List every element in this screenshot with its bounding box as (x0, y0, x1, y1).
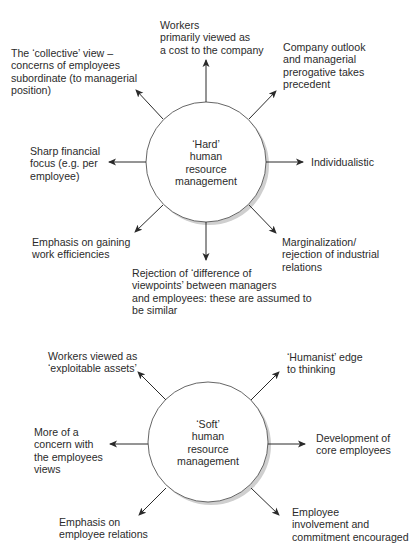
label-line: ‘Humanist’ edge (287, 351, 363, 363)
soft-item-top-left: Workers viewed as ‘exploitable assets’ (48, 350, 137, 375)
soft-arrow-top-right (251, 372, 279, 400)
label-line: management (151, 175, 261, 187)
label-line: and employees: these are assumed to (132, 292, 312, 304)
label-line: the employees (34, 451, 103, 463)
soft-arrow-bottom-right (251, 488, 279, 515)
soft-item-bottom-right: Employee involvement and commitment enco… (292, 506, 409, 543)
label-line: Individualistic (311, 156, 374, 168)
label-line: position) (11, 84, 137, 96)
label-line: and managerial (283, 53, 365, 65)
label-line: Workers viewed as (48, 350, 137, 362)
hard-arrow-top-left (136, 90, 163, 119)
label-line: human (153, 430, 263, 442)
label-line: Development of (316, 432, 391, 444)
label-line: work efficiencies (32, 248, 130, 260)
hard-item-top: Workers primarily viewed as a cost to th… (160, 19, 264, 56)
label-line: core employees (316, 444, 391, 456)
hard-item-top-left: The ‘collective’ view – concerns of empl… (11, 47, 137, 96)
label-line: More of a (34, 426, 103, 438)
label-line: employee relations (59, 528, 148, 540)
soft-item-top-right: ‘Humanist’ edge to thinking (287, 351, 363, 376)
hard-item-left: Sharp financial focus (e.g. per employee… (30, 145, 100, 182)
hard-arrow-bottom-left (135, 205, 163, 232)
label-line: be similar (132, 304, 312, 316)
hard-center-label: ‘Hard’ human resource management (151, 138, 261, 187)
label-line: Sharp financial (30, 145, 100, 157)
label-line: employee) (30, 170, 100, 182)
hard-item-right: Individualistic (311, 156, 374, 168)
soft-item-right: Development of core employees (316, 432, 391, 457)
label-line: viewpoints’ between managers (132, 279, 312, 291)
soft-arrow-top-left (138, 372, 166, 400)
label-line: primarily viewed as (160, 31, 264, 43)
label-line: to thinking (287, 363, 363, 375)
label-line: human (151, 150, 261, 162)
soft-center-label: ‘Soft’ human resource management (153, 418, 263, 467)
label-line: concern with (34, 438, 103, 450)
label-line: commitment encouraged (292, 531, 409, 543)
label-line: a cost to the company (160, 44, 264, 56)
label-line: concerns of employees (11, 59, 137, 71)
hard-arrow-bottom-right (249, 205, 276, 233)
label-line: Marginalization/ (282, 236, 379, 248)
label-line: ‘Hard’ (151, 138, 261, 150)
label-line: prerogative takes (283, 66, 365, 78)
soft-item-bottom-left: Emphasis on employee relations (59, 516, 148, 541)
soft-arrow-bottom-left (139, 488, 166, 515)
label-line: ‘exploitable assets’ (48, 362, 137, 374)
label-line: The ‘collective’ view – (11, 47, 137, 59)
label-line: Rejection of ‘difference of (132, 267, 312, 279)
hard-item-bottom: Rejection of ‘difference of viewpoints’ … (132, 267, 312, 316)
label-line: ‘Soft’ (153, 418, 263, 430)
label-line: resource (151, 163, 261, 175)
label-line: Emphasis on (59, 516, 148, 528)
soft-item-left: More of a concern with the employees vie… (34, 426, 103, 475)
hard-item-bottom-left: Emphasis on gaining work efficiencies (32, 236, 130, 261)
label-line: focus (e.g. per (30, 157, 100, 169)
label-line: Employee (292, 506, 409, 518)
label-line: Workers (160, 19, 264, 31)
label-line: precedent (283, 78, 365, 90)
label-line: Company outlook (283, 41, 365, 53)
label-line: views (34, 463, 103, 475)
label-line: subordinate (to managerial (11, 72, 137, 84)
hard-item-top-right: Company outlook and managerial prerogati… (283, 41, 365, 90)
label-line: resource (153, 443, 263, 455)
label-line: involvement and (292, 518, 409, 530)
label-line: Emphasis on gaining (32, 236, 130, 248)
hard-arrow-top-right (249, 91, 276, 119)
label-line: rejection of industrial (282, 248, 379, 260)
label-line: management (153, 455, 263, 467)
